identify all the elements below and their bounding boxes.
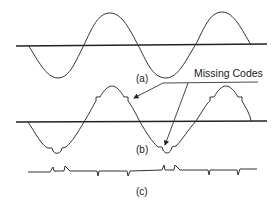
- arrow-missing-code-upper: [134, 83, 163, 98]
- diagram-canvas: [0, 0, 278, 210]
- error-trace-c: [28, 165, 257, 176]
- missing-codes-label: Missing Codes: [194, 67, 263, 79]
- axis-b: [16, 121, 267, 122]
- panel-label-c: (c): [136, 186, 148, 197]
- axis-a: [16, 44, 267, 46]
- panel-label-b: (b): [136, 144, 148, 155]
- annotation-underline: [163, 82, 258, 83]
- panel-label-a: (a): [136, 73, 148, 84]
